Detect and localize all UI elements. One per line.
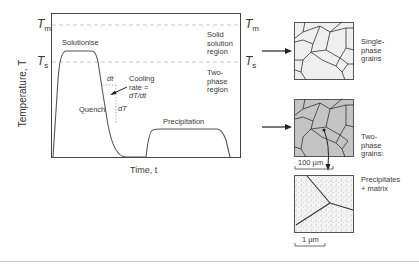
micrograph-two-phase (295, 99, 355, 157)
two-phase-caption: Two- phase grains: (361, 133, 384, 159)
scale-bar-1um-label: 1 µm (302, 236, 319, 245)
cooling-rate-label: Cooling rate = dT/dt (129, 75, 154, 101)
arrowhead-icon (326, 164, 331, 171)
dT-label: dT (118, 105, 127, 114)
arrowhead-icon (285, 48, 292, 54)
ts-label-left: Ts (37, 54, 48, 70)
y-axis-label: Temperature, T (17, 44, 28, 144)
precipitation-label: Precipitation (163, 118, 204, 127)
precipitates-caption: Precipitates + matrix (361, 176, 400, 193)
micrograph-precipitates (295, 176, 354, 233)
arrowhead-icon (285, 124, 292, 130)
ts-label-right: Ts (245, 54, 256, 70)
quench-label: Quench (79, 106, 105, 115)
solutionise-label: Solutionise (62, 39, 99, 48)
tm-label-right: Tm (245, 17, 259, 33)
micrograph-single-phase (295, 22, 355, 80)
x-axis-label: Time, t (130, 166, 157, 175)
solid-solution-region-label: Solid solution region (207, 31, 233, 57)
bottom-divider (0, 261, 419, 262)
scale-bar-100um-label: 100 µm (298, 159, 323, 168)
single-phase-caption: Single- phase grains (361, 38, 384, 64)
two-phase-region-label: Two- phase region (207, 69, 228, 95)
tm-label-left: Tm (37, 17, 51, 33)
dt-label: dt (107, 75, 113, 84)
